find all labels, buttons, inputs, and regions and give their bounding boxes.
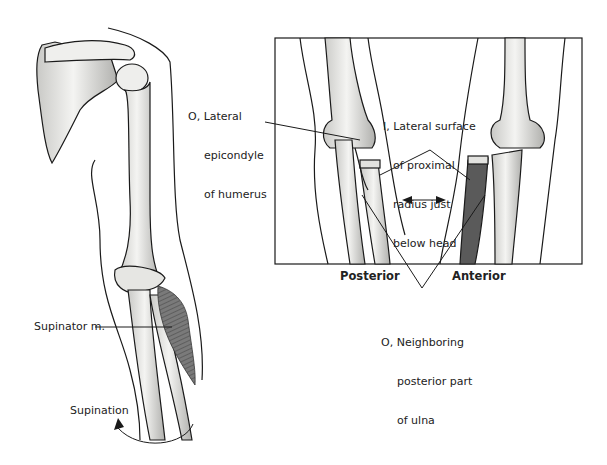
label-insertion: I, Lateral surface of proximal radius ju… xyxy=(383,94,476,263)
label-origin-ulna: O, Neighboring posterior part of ulna xyxy=(381,310,472,440)
humerus xyxy=(115,64,165,293)
scapula xyxy=(37,41,135,163)
supination-arrowhead xyxy=(114,418,124,430)
anatomy-illustration xyxy=(0,0,607,465)
label-origin-humerus: O, Lateral epicondyle of humerus xyxy=(188,84,267,214)
label-supinator: Supinator m. xyxy=(34,320,105,333)
label-supination: Supination xyxy=(70,404,129,417)
label-anterior: Anterior xyxy=(452,270,506,283)
label-posterior: Posterior xyxy=(340,270,400,283)
